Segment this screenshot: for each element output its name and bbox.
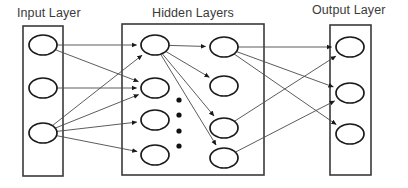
neuron-hidden1-3: [141, 110, 169, 130]
neuron-nodes: [29, 35, 364, 168]
connection-i3-to-h1c: [57, 122, 137, 131]
neuron-input-2: [29, 78, 57, 98]
neuron-hidden2-2: [210, 76, 238, 96]
connection-h2c-to-o1: [234, 56, 335, 121]
connection-h1a-to-h2d: [161, 54, 216, 145]
neuron-hidden2-3: [210, 118, 238, 138]
connection-i1-to-h1b: [55, 50, 138, 82]
connection-h1a-to-h2c: [162, 54, 214, 116]
ellipsis-dots: [176, 97, 181, 148]
neuron-hidden1-2: [141, 78, 169, 98]
vertical-ellipsis-dot-3: [176, 128, 181, 133]
neuron-hidden1-1: [141, 35, 169, 55]
connection-i3-to-h1d: [56, 136, 137, 152]
neuron-input-3: [29, 123, 57, 143]
vertical-ellipsis-dot-4: [176, 143, 181, 148]
neuron-output-1: [336, 37, 364, 57]
connection-h2a-to-o2: [236, 52, 333, 87]
neuron-output-2: [336, 83, 364, 103]
neuron-hidden2-1: [210, 37, 238, 57]
neural-network-diagram: Input Layer Hidden Layers Output Layer: [0, 0, 408, 188]
neuron-hidden1-4: [141, 145, 169, 165]
neuron-hidden2-4: [210, 148, 238, 168]
vertical-ellipsis-dot-1: [176, 97, 181, 102]
connection-h2d-to-o2: [235, 101, 334, 152]
vertical-ellipsis-dot-2: [176, 112, 181, 117]
connection-h1a-to-h2a: [169, 45, 206, 46]
neuron-output-3: [336, 124, 364, 144]
network-graphic: [0, 0, 408, 188]
connections: [52, 45, 336, 152]
neuron-input-1: [29, 35, 57, 55]
